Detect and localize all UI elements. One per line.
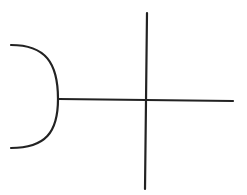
vertical-cross-line (145, 13, 147, 189)
diagram-canvas (0, 0, 247, 195)
symbol-diagram (0, 0, 247, 195)
socket-arc-shape (11, 45, 58, 148)
